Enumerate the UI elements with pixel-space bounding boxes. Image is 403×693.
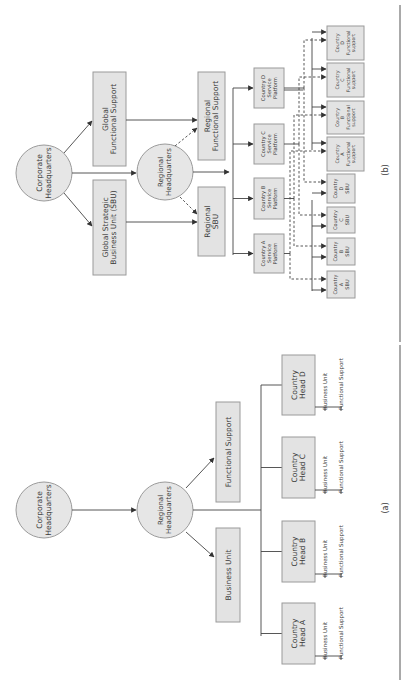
- b-caption: (b): [381, 164, 390, 175]
- b-dash-platform-to-sbu-c: [299, 144, 326, 215]
- b-global-functional-support-label: Functional Support: [109, 84, 118, 155]
- b-service-platform-c: Country CServicePlatform: [254, 124, 284, 164]
- a-business-unit-label: Business Unit: [224, 550, 233, 601]
- a-arrow-rhq-to-bu: [186, 532, 214, 557]
- b-country-functional-support-c-label: Functional: [346, 68, 351, 93]
- b-country-sbu-c-label: SBU: [344, 215, 350, 226]
- b-regional-hq-label: Regional: [157, 157, 165, 187]
- b-corporate-hq-label: Headquarters: [44, 147, 53, 198]
- b-country-functional-support-b-label: support: [351, 108, 356, 127]
- a-sub-business-unit-b: Business Unit: [322, 539, 328, 577]
- a-regional-hq: RegionalHeadquarters: [137, 482, 193, 538]
- org-chart-svg: CorporateHeadquartersGlobalFunctional Su…: [0, 0, 403, 693]
- a-arrow-rhq-to-fs: [186, 458, 214, 488]
- b-country-functional-support-a-label: support: [351, 145, 356, 164]
- b-country-functional-support-a: CountryAFunctionalsupport: [327, 137, 364, 171]
- org-structure-figure: CorporateHeadquartersGlobalFunctional Su…: [0, 0, 403, 693]
- a-sub-functional-support-b: Functional Support: [338, 524, 345, 577]
- b-global-sbu: Global StrategicBusiness Unit (SBU): [93, 180, 126, 275]
- b-service-platform-a: Country AServicePlatform: [254, 234, 284, 273]
- b-dash-rhq-to-rfs: [175, 128, 197, 146]
- b-service-platform-b-label: Platform: [272, 188, 278, 210]
- a-country-head-b-label: Head B: [298, 538, 307, 565]
- a-sub-functional-support-c: Functional Support: [338, 440, 345, 493]
- a-country-head-b: CountryHead B: [282, 521, 315, 582]
- b-country-functional-support-d-label: Country: [335, 33, 340, 52]
- b-country-sbu-c: CountryCSBU: [327, 207, 355, 233]
- b-service-platform-a-label: Platform: [272, 243, 278, 265]
- b-country-functional-support-b-label: B: [340, 116, 345, 119]
- b-country-sbu-b-label: SBU: [344, 246, 350, 257]
- b-global-functional-support: GlobalFunctional Support: [93, 72, 126, 166]
- b-service-platform-d-label: Platform: [272, 77, 278, 99]
- b-service-platform-b: Country BServicePlatform: [254, 178, 284, 219]
- a-corporate-hq: CorporateHeadquarters: [16, 482, 72, 538]
- b-arrow-corp-to-gfs: [64, 121, 92, 153]
- a-country-head-d: CountryHead D: [282, 355, 315, 415]
- b-dash-platform-to-fs-a: [290, 151, 326, 254]
- b-country-functional-support-d-label: D: [340, 41, 345, 45]
- b-regional-hq: RegionalHeadquarters: [137, 144, 193, 200]
- a-regional-hq-label: Headquarters: [165, 486, 173, 534]
- b-dash-platform-to-fs-d: [304, 40, 326, 88]
- a-country-head-d-label: Head D: [298, 371, 307, 399]
- a-sub-business-unit-a: Business Unit: [322, 621, 328, 659]
- b-dash-platform-to-fs-c: [299, 77, 326, 144]
- b-dash-rhq-to-rsbu: [180, 197, 197, 214]
- a-corporate-hq-label: Headquarters: [44, 484, 53, 535]
- b-service-platform-c-label: Platform: [272, 133, 278, 155]
- a-sub-functional-support-a: Functional Support: [338, 606, 345, 659]
- b-country-functional-support-d-label: Functional: [346, 31, 351, 56]
- a-sub-business-unit-c: Business Unit: [322, 455, 328, 493]
- a-sub-business-unit-d: Business Unit: [322, 372, 328, 410]
- b-country-sbu-d-label: SBU: [344, 183, 350, 194]
- b-arrow-corp-to-gsbu: [64, 193, 92, 226]
- b-dash-platform-to-sbu-b: [294, 199, 326, 247]
- b-regional-functional-support: RegionalFunctional Support: [198, 72, 225, 160]
- b-country-functional-support-c-label: support: [351, 71, 356, 90]
- a-functional-support-label: Functional Support: [224, 417, 233, 488]
- b-country-functional-support-c: CountryCFunctionalsupport: [327, 63, 364, 97]
- b-country-functional-support-a-label: Functional: [346, 142, 351, 167]
- b-global-sbu-label: Business Unit (SBU): [109, 190, 118, 264]
- a-functional-support: Functional Support: [216, 402, 240, 502]
- b-country-functional-support-d: CountryDFunctionalsupport: [327, 26, 364, 60]
- b-country-sbu-b: CountryBSBU: [327, 238, 355, 265]
- b-service-platform-d: Country DServicePlatform: [254, 68, 284, 108]
- b-country-sbu-a: CountryASBU: [327, 271, 355, 298]
- b-country-functional-support-b-label: Country: [335, 108, 340, 127]
- b-country-functional-support-b: CountryBFunctionalsupport: [327, 101, 364, 134]
- b-country-functional-support-c-label: Country: [335, 70, 340, 89]
- b-regional-hq-label: Headquarters: [165, 148, 173, 196]
- b-regional-sbu-label: SBU: [211, 214, 220, 229]
- b-regional-sbu: RegionalSBU: [198, 187, 225, 256]
- a-regional-hq-label: Regional: [157, 495, 165, 525]
- b-dash-platform-to-sbu-d: [304, 88, 326, 182]
- b-corporate-hq: CorporateHeadquarters: [16, 145, 72, 201]
- a-country-head-c: CountryHead C: [282, 437, 315, 498]
- b-regional-functional-support-label: Functional Support: [211, 81, 220, 152]
- a-sub-functional-support-d: Functional Support: [338, 357, 345, 410]
- a-country-head-a-label: Head A: [298, 619, 307, 647]
- a-caption: (a): [381, 502, 390, 513]
- b-country-functional-support-a-label: Country: [335, 144, 340, 163]
- b-country-functional-support-b-label: Functional: [346, 105, 351, 130]
- b-country-sbu-d: CountryDSBU: [327, 174, 355, 203]
- a-country-head-a: CountryHead A: [282, 603, 315, 664]
- b-country-functional-support-d-label: support: [351, 34, 356, 53]
- a-country-head-c-label: Head C: [298, 454, 307, 481]
- a-business-unit: Business Unit: [216, 528, 240, 622]
- b-country-sbu-a-label: SBU: [344, 279, 350, 290]
